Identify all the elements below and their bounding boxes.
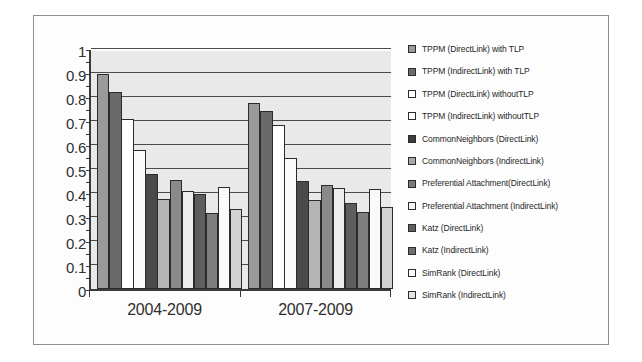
y-axis-tick-label: 0 (78, 283, 86, 300)
legend-item[interactable]: CommonNeighbors (IndirectLink) (408, 150, 604, 172)
legend-swatch-icon (408, 90, 416, 98)
legend-swatch-icon (408, 202, 416, 210)
y-axis-tick-label: 0.4 (66, 187, 86, 204)
figure-frame: 10.90.80.70.60.50.40.30.20.10 2004-20092… (33, 15, 609, 345)
y-axis-tick-label: 0.1 (66, 259, 86, 276)
legend-item-label: Katz (DirectLink) (422, 224, 483, 233)
legend-item-label: TPPM (IndirectLink) withoutTLP (422, 112, 539, 121)
bar (345, 203, 357, 289)
bar (206, 213, 218, 289)
bar (230, 209, 242, 289)
bar (296, 181, 308, 289)
legend-swatch-icon (408, 291, 416, 299)
bar (357, 212, 369, 289)
legend-swatch-icon (408, 247, 416, 255)
legend-item-label: CommonNeighbors (IndirectLink) (422, 157, 544, 166)
x-axis-category-label: 2004-2009 (127, 301, 202, 319)
bar (308, 200, 320, 289)
legend-item-label: Preferential Attachment(DirectLink) (422, 179, 550, 188)
x-axis-tickmark (240, 291, 241, 297)
legend-swatch-icon (408, 269, 416, 277)
legend-swatch-icon (408, 112, 416, 120)
bar (333, 188, 345, 289)
legend-item[interactable]: Preferential Attachment (IndirectLink) (408, 195, 604, 217)
bar (272, 125, 284, 289)
legend-item-label: Preferential Attachment (IndirectLink) (422, 202, 558, 211)
legend-item[interactable]: TPPM (DirectLink) withoutTLP (408, 83, 604, 105)
legend-swatch-icon (408, 180, 416, 188)
y-axis-tick-label: 0.5 (66, 163, 86, 180)
legend-item[interactable]: SimRank (DirectLink) (408, 262, 604, 284)
legend-item-label: TPPM (DirectLink) withoutTLP (422, 90, 534, 99)
gridline (91, 48, 391, 49)
x-axis-tickmarks (89, 291, 391, 298)
y-axis-tick-label: 0.2 (66, 235, 86, 252)
legend-item[interactable]: SimRank (IndirectLink) (408, 284, 604, 306)
bar (133, 150, 145, 289)
bar (248, 103, 260, 289)
legend-swatch-icon (408, 224, 416, 232)
bar (145, 174, 157, 289)
bar (157, 199, 169, 289)
bar (321, 185, 333, 289)
bar (194, 194, 206, 289)
legend-item-label: SimRank (IndirectLink) (422, 291, 506, 300)
bar-chart: 10.90.80.70.60.50.40.30.20.10 2004-20092… (34, 16, 608, 344)
legend-swatch-icon (408, 45, 416, 53)
bar (97, 74, 109, 289)
chart-legend: TPPM (DirectLink) with TLPTPPM (Indirect… (408, 38, 604, 307)
x-axis-tickmark (390, 291, 391, 297)
y-axis-labels: 10.90.80.70.60.50.40.30.20.10 (44, 51, 86, 291)
legend-item[interactable]: TPPM (DirectLink) with TLP (408, 38, 604, 60)
legend-swatch-icon (408, 157, 416, 165)
x-axis-category-label: 2007-2009 (278, 301, 353, 319)
x-axis-labels: 2004-20092007-2009 (89, 301, 391, 327)
y-axis-tick-label: 0.6 (66, 139, 86, 156)
bar (170, 180, 182, 289)
bar (381, 207, 393, 289)
y-axis-tick-label: 0.9 (66, 67, 86, 84)
plot-wrap (89, 51, 391, 291)
y-axis-tick-label: 0.7 (66, 115, 86, 132)
y-axis-tick-label: 1 (78, 43, 86, 60)
legend-item-label: SimRank (DirectLink) (422, 269, 500, 278)
legend-item-label: TPPM (DirectLink) with TLP (422, 45, 524, 54)
bar (284, 158, 296, 289)
legend-item[interactable]: Preferential Attachment(DirectLink) (408, 172, 604, 194)
legend-swatch-icon (408, 135, 416, 143)
bar (121, 119, 133, 289)
legend-item[interactable]: TPPM (IndirectLink) withoutTLP (408, 105, 604, 127)
legend-item-label: Katz (IndirectLink) (422, 246, 489, 255)
y-axis-tick-label: 0.8 (66, 91, 86, 108)
legend-item[interactable]: CommonNeighbors (DirectLink) (408, 128, 604, 150)
bars-layer (91, 51, 391, 289)
bar (182, 191, 194, 289)
bar (260, 111, 272, 289)
x-axis-tickmark (89, 291, 90, 297)
legend-swatch-icon (408, 68, 416, 76)
legend-item[interactable]: TPPM (IndirectLink) with TLP (408, 60, 604, 82)
y-axis-tick-label: 0.3 (66, 211, 86, 228)
bar (369, 189, 381, 289)
legend-item[interactable]: Katz (IndirectLink) (408, 240, 604, 262)
bar (218, 187, 230, 289)
legend-item-label: TPPM (IndirectLink) with TLP (422, 67, 530, 76)
legend-item[interactable]: Katz (DirectLink) (408, 217, 604, 239)
bar (109, 92, 121, 289)
legend-item-label: CommonNeighbors (DirectLink) (422, 135, 538, 144)
plot-area (89, 51, 391, 291)
